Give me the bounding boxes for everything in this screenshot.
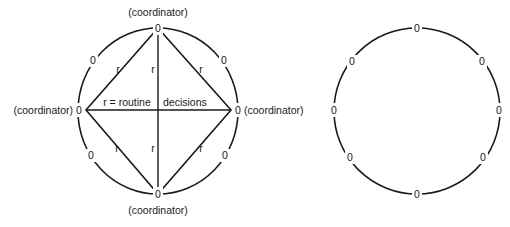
left-node-left: 0 (76, 104, 82, 116)
right-node-upper-right: 0 (479, 55, 485, 67)
right-node-bottom: 0 (414, 188, 420, 200)
left-network: 0 0 0 0 0 0 0 0 (coordinator) (coordinat… (13, 6, 303, 216)
right-node-lower-right: 0 (480, 151, 486, 163)
left-node-lower-right: 0 (222, 149, 228, 161)
left-node-upper-right: 0 (221, 54, 227, 66)
caption-left-coordinator: (coordinator) (13, 104, 73, 116)
right-node-left: 0 (331, 104, 337, 116)
edge-label-lower-center: r (151, 142, 155, 154)
right-node-right: 0 (496, 104, 502, 116)
caption-top-coordinator: (coordinator) (128, 6, 188, 18)
left-node-upper-left: 0 (90, 54, 96, 66)
left-node-right: 0 (235, 104, 241, 116)
left-node-top: 0 (155, 22, 161, 34)
edge-label-upper-left: r (116, 63, 120, 75)
legend-routine: r = routine (103, 96, 151, 108)
right-node-top: 0 (414, 22, 420, 34)
edge-label-lower-left: r (115, 142, 119, 154)
legend-decisions: decisions (163, 96, 207, 108)
edge-label-upper-center: r (151, 63, 155, 75)
caption-right-coordinator: (coordinator) (244, 104, 304, 116)
left-node-lower-left: 0 (88, 149, 94, 161)
caption-bottom-coordinator: (coordinator) (128, 204, 188, 216)
right-node-upper-left: 0 (349, 55, 355, 67)
right-network-ring (334, 28, 500, 194)
left-node-bottom: 0 (155, 188, 161, 200)
edge-label-lower-right: r (199, 142, 203, 154)
edge-label-upper-right: r (199, 63, 203, 75)
right-node-lower-left: 0 (347, 151, 353, 163)
right-network: 0 0 0 0 0 0 0 0 (329, 21, 504, 201)
network-diagram: 0 0 0 0 0 0 0 0 (coordinator) (coordinat… (0, 0, 510, 227)
